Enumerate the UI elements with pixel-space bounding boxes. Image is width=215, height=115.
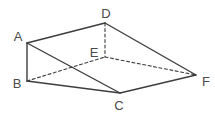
edge-AD	[27, 23, 105, 43]
vertex-label-A: A	[14, 29, 23, 44]
edge-BC	[27, 81, 120, 93]
edge-DF	[105, 23, 196, 75]
vertex-label-E: E	[90, 45, 99, 60]
figure-canvas: ABCDEF	[0, 0, 215, 115]
edge-EF-hidden	[105, 57, 196, 75]
edge-CF	[120, 75, 196, 93]
edge-BE-hidden	[27, 57, 105, 81]
vertex-label-F: F	[202, 74, 210, 89]
vertex-label-D: D	[101, 6, 110, 21]
prism-diagram: ABCDEF	[0, 0, 215, 115]
vertex-label-C: C	[114, 98, 123, 113]
edge-AC	[27, 43, 120, 93]
vertex-label-B: B	[13, 76, 22, 91]
